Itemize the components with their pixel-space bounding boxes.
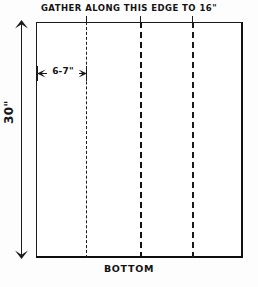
arrow-down-icon (14, 250, 29, 259)
gather-edge-title: GATHER ALONG THIS EDGE TO 16" (0, 3, 258, 14)
width-dimension-label: 6-7" (47, 66, 79, 76)
arrow-left-icon (37, 69, 46, 78)
division-line-2 (140, 22, 142, 258)
bottom-edge-label: BOTTOM (0, 263, 258, 274)
division-line-1 (86, 22, 87, 258)
division-line-3 (192, 22, 194, 258)
height-dimension-label: 30" (2, 100, 16, 124)
arrow-right-icon (78, 69, 87, 78)
arrow-up-icon (14, 20, 29, 29)
height-dimension-line (21, 22, 22, 258)
pattern-diagram: GATHER ALONG THIS EDGE TO 16" 30" 6-7" B… (0, 0, 258, 287)
